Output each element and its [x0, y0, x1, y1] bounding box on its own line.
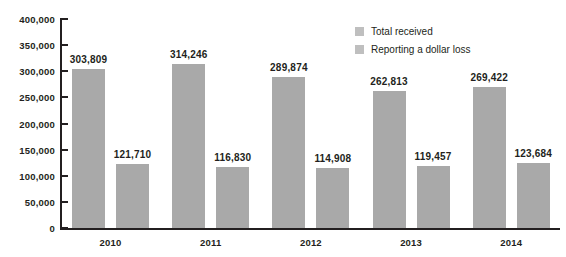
- chart-legend: Total received Reporting a dollar loss: [355, 26, 471, 55]
- bar: [272, 77, 305, 228]
- y-axis-tick: [60, 70, 68, 72]
- bar: [72, 69, 105, 228]
- y-axis-label: 350,000: [0, 40, 55, 51]
- legend-swatch-icon: [355, 45, 364, 54]
- x-axis-label: 2014: [500, 237, 522, 248]
- bar-value-label: 119,457: [415, 151, 452, 162]
- x-axis-label: 2012: [300, 237, 322, 248]
- legend-item-total-received: Total received: [355, 26, 471, 37]
- y-axis-tick: [60, 149, 68, 151]
- y-axis-label: 100,000: [0, 170, 55, 181]
- bar-value-label: 314,246: [170, 49, 208, 60]
- bar: [216, 167, 249, 228]
- y-axis-label: 300,000: [0, 66, 55, 77]
- bar-value-label: 289,874: [270, 62, 308, 73]
- bar: [417, 166, 450, 228]
- bar: [316, 168, 349, 228]
- bar-value-label: 269,422: [471, 72, 509, 83]
- bar-chart: 050,000100,000150,000200,000250,000300,0…: [0, 0, 566, 257]
- bar-value-label: 123,684: [515, 148, 553, 159]
- bar: [172, 64, 205, 228]
- legend-item-reporting-a-dollar-loss: Reporting a dollar loss: [355, 44, 471, 55]
- y-axis-tick: [60, 96, 68, 98]
- bar-value-label: 121,710: [114, 149, 152, 160]
- x-axis-label: 2013: [400, 237, 422, 248]
- y-axis-tick: [60, 44, 68, 46]
- y-axis-label: 150,000: [0, 144, 55, 155]
- x-axis-label: 2011: [200, 237, 221, 248]
- bar: [473, 87, 506, 228]
- x-axis-label: 2010: [100, 237, 122, 248]
- bar-value-label: 262,813: [370, 76, 408, 87]
- legend-label: Reporting a dollar loss: [371, 44, 471, 55]
- y-axis-label: 50,000: [0, 196, 55, 207]
- legend-swatch-icon: [355, 27, 364, 36]
- y-axis-tick: [60, 123, 68, 125]
- y-axis-tick: [60, 175, 68, 177]
- bar: [373, 91, 406, 228]
- y-axis-label: 200,000: [0, 118, 55, 129]
- y-axis-label: 0: [0, 223, 55, 234]
- bar-value-label: 303,809: [70, 54, 108, 65]
- legend-label: Total received: [371, 26, 433, 37]
- x-axis-line: [60, 228, 560, 230]
- y-axis-tick: [60, 201, 68, 203]
- y-axis-tick: [60, 18, 68, 20]
- y-axis-label: 250,000: [0, 92, 55, 103]
- bar-value-label: 114,908: [314, 153, 351, 164]
- y-axis-label: 400,000: [0, 14, 55, 25]
- bar: [517, 163, 550, 228]
- bar: [116, 164, 149, 228]
- bar-value-label: 116,830: [214, 152, 251, 163]
